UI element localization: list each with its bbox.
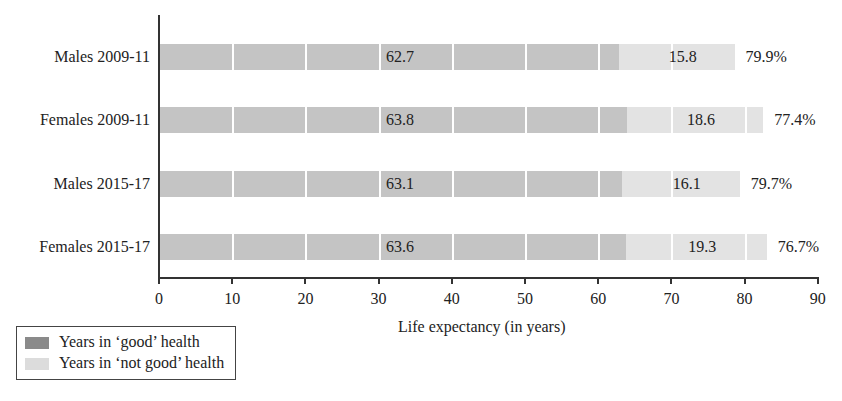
value-label-good: 63.8 xyxy=(370,111,430,129)
x-tick xyxy=(304,277,306,284)
bar-gridline xyxy=(452,107,454,133)
value-label-good: 63.1 xyxy=(370,175,430,193)
percent-label: 79.7% xyxy=(751,175,792,193)
life-expectancy-chart: 0102030405060708090 Males 2009-1162.715.… xyxy=(0,0,842,401)
bar-gridline xyxy=(305,234,307,260)
x-tick-label: 60 xyxy=(578,290,618,308)
x-tick-label: 0 xyxy=(139,290,179,308)
value-label-notgood: 15.8 xyxy=(653,48,713,66)
category-label: Males 2015-17 xyxy=(0,175,150,193)
legend: Years in ‘good’ health Years in ‘not goo… xyxy=(16,326,236,380)
category-label: Females 2015-17 xyxy=(0,238,150,256)
bar-gridline xyxy=(305,107,307,133)
bar-gridline xyxy=(452,44,454,70)
bar-gridline xyxy=(598,171,600,197)
legend-swatch-notgood xyxy=(25,358,49,370)
bar-gridline xyxy=(232,107,234,133)
x-tick-label: 20 xyxy=(285,290,325,308)
x-tick xyxy=(670,277,672,284)
x-tick xyxy=(158,277,160,284)
x-tick-label: 70 xyxy=(651,290,691,308)
x-tick-label: 30 xyxy=(359,290,399,308)
legend-swatch-good xyxy=(25,337,49,349)
bar-gridline xyxy=(232,44,234,70)
x-tick-label: 50 xyxy=(505,290,545,308)
bar-gridline xyxy=(452,234,454,260)
x-tick xyxy=(231,277,233,284)
percent-label: 76.7% xyxy=(778,238,819,256)
bar-gridline xyxy=(452,171,454,197)
bar-gridline xyxy=(305,44,307,70)
stacked-bar: 63.116.1 xyxy=(160,171,740,197)
x-axis-title: Life expectancy (in years) xyxy=(398,318,565,336)
x-axis-line xyxy=(158,277,819,279)
value-label-notgood: 18.6 xyxy=(671,111,731,129)
bar-gridline xyxy=(525,44,527,70)
bar-gridline xyxy=(598,107,600,133)
bar-gridline xyxy=(305,171,307,197)
x-tick-label: 40 xyxy=(432,290,472,308)
x-tick xyxy=(451,277,453,284)
percent-label: 79.9% xyxy=(746,48,787,66)
x-tick xyxy=(597,277,599,284)
legend-label-good: Years in ‘good’ health xyxy=(59,333,200,351)
bar-gridline xyxy=(598,234,600,260)
stacked-bar: 63.818.6 xyxy=(160,107,763,133)
legend-label-notgood: Years in ‘not good’ health xyxy=(59,354,224,372)
x-tick xyxy=(744,277,746,284)
bar-gridline xyxy=(525,107,527,133)
bar-gridline xyxy=(525,171,527,197)
bar-gridline xyxy=(232,234,234,260)
x-tick xyxy=(817,277,819,284)
x-tick xyxy=(524,277,526,284)
bar-gridline xyxy=(745,234,747,260)
category-label: Males 2009-11 xyxy=(0,48,150,66)
x-tick-label: 90 xyxy=(798,290,838,308)
x-tick-label: 10 xyxy=(212,290,252,308)
value-label-good: 62.7 xyxy=(370,48,430,66)
bar-gridline xyxy=(232,171,234,197)
value-label-good: 63.6 xyxy=(370,238,430,256)
x-tick xyxy=(378,277,380,284)
stacked-bar: 62.715.8 xyxy=(160,44,735,70)
category-label: Females 2009-11 xyxy=(0,111,150,129)
bar-gridline xyxy=(745,107,747,133)
x-tick-label: 80 xyxy=(725,290,765,308)
bar-gridline xyxy=(525,234,527,260)
value-label-notgood: 16.1 xyxy=(657,175,717,193)
stacked-bar: 63.619.3 xyxy=(160,234,767,260)
bar-gridline xyxy=(598,44,600,70)
percent-label: 77.4% xyxy=(774,111,815,129)
value-label-notgood: 19.3 xyxy=(672,238,732,256)
